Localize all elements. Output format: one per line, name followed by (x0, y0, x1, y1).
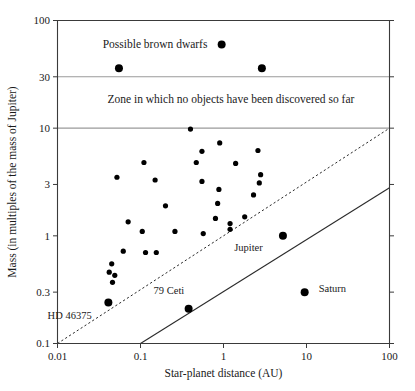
annotation-79-ceti: 79 Ceti (154, 285, 185, 296)
data-point-hd-46375 (104, 299, 112, 307)
data-point-1-8 (114, 175, 119, 180)
figure-container: 0.10.31310301000.010.1110100Star-planet … (0, 0, 415, 391)
y-tick-label-1: 1 (45, 230, 51, 242)
data-point-1-24 (121, 249, 126, 254)
data-point-1-5 (141, 160, 146, 165)
y-tick-label-100: 100 (34, 14, 51, 26)
x-axis-title: Star-planet distance (AU) (165, 367, 283, 380)
data-point-1-21 (140, 229, 145, 234)
data-point-1-12 (216, 187, 221, 192)
data-point-0-0 (115, 64, 123, 72)
data-point-1-0 (188, 127, 193, 132)
data-point-1-13 (251, 192, 256, 197)
data-point-1-26 (154, 250, 159, 255)
data-point-1-25 (143, 250, 148, 255)
y-axis-title: Mass (in multiples of the mass of Jupite… (6, 86, 19, 277)
scatter-plot: 0.10.31310301000.010.1110100Star-planet … (0, 0, 415, 391)
data-point-0-2 (258, 64, 266, 72)
y-tick-label-30: 30 (39, 71, 51, 83)
y-tick-label-10: 10 (39, 122, 51, 134)
annotation-saturn: Saturn (319, 283, 347, 294)
data-point-1-22 (172, 229, 177, 234)
data-point-1-29 (112, 273, 117, 278)
data-point-1-17 (213, 216, 218, 221)
data-point-1-18 (227, 221, 232, 226)
data-point-1-3 (199, 149, 204, 154)
data-point-1-10 (199, 179, 204, 184)
data-point-jupiter (279, 232, 287, 240)
annotation-zone-in-which-no-objects-have-been-discovered-so-far: Zone in which no objects have been disco… (107, 93, 354, 106)
data-point-0-1 (218, 40, 226, 48)
annotation-jupiter: Jupiter (234, 242, 263, 253)
x-tick-label-100: 100 (381, 350, 398, 362)
reference-line-dashed-detection-limit (58, 128, 390, 343)
data-point-1-19 (227, 227, 232, 232)
data-point-1-16 (242, 214, 247, 219)
data-point-1-20 (126, 219, 131, 224)
data-point-1-15 (163, 203, 168, 208)
data-point-1-23 (201, 231, 206, 236)
data-point-79-ceti (185, 305, 193, 313)
x-tick-label-0.01: 0.01 (48, 350, 67, 362)
data-point-1-9 (153, 177, 158, 182)
annotation-hd-46375: HD 46375 (48, 310, 92, 321)
x-tick-label-10: 10 (301, 350, 313, 362)
data-point-1-28 (107, 270, 112, 275)
data-point-1-4 (194, 160, 199, 165)
data-point-saturn (301, 288, 309, 296)
data-point-1-1 (217, 140, 222, 145)
x-tick-label-0.1: 0.1 (134, 350, 148, 362)
y-tick-label-0.1: 0.1 (36, 337, 50, 349)
data-point-1-2 (255, 148, 260, 153)
data-point-1-7 (258, 172, 263, 177)
data-point-1-30 (110, 280, 115, 285)
y-tick-label-3: 3 (45, 178, 51, 190)
data-point-1-27 (109, 261, 114, 266)
x-tick-label-1: 1 (221, 350, 227, 362)
annotation-possible-brown-dwarfs: Possible brown dwarfs (103, 38, 208, 50)
y-tick-label-0.3: 0.3 (36, 286, 50, 298)
data-point-1-14 (215, 201, 220, 206)
data-point-1-11 (257, 180, 262, 185)
data-point-1-6 (233, 161, 238, 166)
plot-frame (58, 21, 390, 344)
